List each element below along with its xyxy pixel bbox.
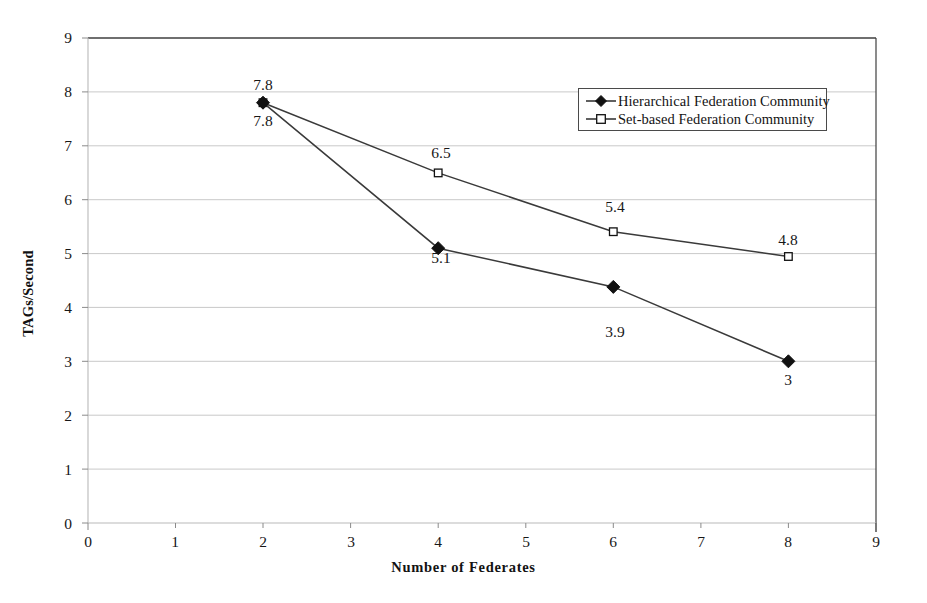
y-tick-label-1: 1 [32, 461, 72, 479]
y-axis-title: TAGs/Second [20, 224, 37, 364]
y-tick-label-7: 7 [32, 137, 72, 155]
legend-item-set-based[interactable]: Set-based Federation Community [579, 110, 826, 128]
x-tick-label-3: 3 [331, 533, 371, 551]
x-tick-label-4: 4 [418, 533, 458, 551]
y-tick-label-0: 0 [32, 515, 72, 533]
y-tick-label-4: 4 [32, 299, 72, 317]
line-chart: 9 8 7 6 5 4 3 2 1 0 0 1 2 3 4 5 6 7 8 9 … [0, 0, 927, 603]
x-tick-label-8: 8 [768, 533, 808, 551]
x-tick-label-2: 2 [243, 533, 283, 551]
hierarchical-label-x2: 7.8 [243, 112, 283, 130]
open-square-marker-icon [584, 112, 618, 126]
legend-label-hierarchical: Hierarchical Federation Community [618, 93, 830, 110]
y-tick-label-5: 5 [32, 245, 72, 263]
y-tick-label-9: 9 [32, 29, 72, 47]
y-tick-label-6: 6 [32, 191, 72, 209]
x-tick-label-1: 1 [155, 533, 195, 551]
x-tick-label-6: 6 [593, 533, 633, 551]
series-hierarchical [257, 96, 795, 368]
y-tick-label-3: 3 [32, 353, 72, 371]
hierarchical-label-x6: 3.9 [595, 323, 635, 341]
legend-item-hierarchical[interactable]: Hierarchical Federation Community [579, 92, 826, 110]
x-tick-label-7: 7 [681, 533, 721, 551]
x-tick-marks [88, 523, 876, 532]
y-tick-marks [82, 38, 88, 523]
legend: Hierarchical Federation Community Set-ba… [578, 88, 827, 131]
set-based-label-x4: 6.5 [421, 144, 461, 162]
x-axis-title: Number of Federates [0, 559, 927, 576]
y-tick-label-2: 2 [32, 407, 72, 425]
y-tick-label-8: 8 [32, 83, 72, 101]
gridlines [88, 92, 876, 469]
set-based-label-x6: 5.4 [595, 198, 635, 216]
hierarchical-label-x8: 3 [768, 371, 808, 389]
series-hierarchical-markers [257, 96, 795, 368]
legend-label-set-based: Set-based Federation Community [618, 111, 814, 128]
set-based-label-x8: 4.8 [768, 231, 808, 249]
x-tick-label-9: 9 [856, 533, 896, 551]
filled-diamond-marker-icon [584, 94, 618, 108]
x-tick-label-5: 5 [506, 533, 546, 551]
set-based-label-x2: 7.8 [243, 76, 283, 94]
x-tick-label-0: 0 [68, 533, 108, 551]
hierarchical-label-x4: 5.1 [421, 249, 461, 267]
